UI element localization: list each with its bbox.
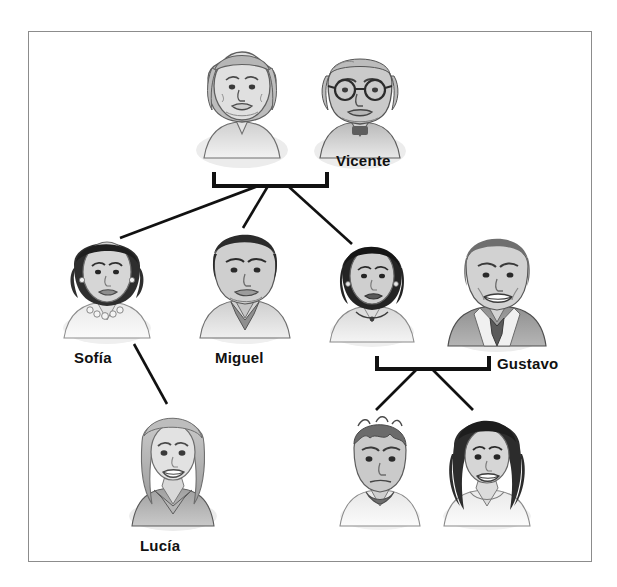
portrait-vicente: [300, 38, 420, 168]
portrait-grandmother: [182, 38, 302, 168]
family-tree-page: Vicente Sofía Miguel Gustavo Lucía: [0, 0, 617, 587]
portrait-gustavo: [440, 222, 555, 350]
label-lucia: Lucía: [140, 538, 180, 553]
portrait-lucia: [118, 400, 228, 530]
portrait-grandson: [330, 404, 430, 529]
portrait-granddaughter: [432, 402, 542, 530]
label-vicente: Vicente: [336, 153, 391, 168]
label-sofia: Sofía: [74, 350, 112, 365]
portrait-sofia: [52, 224, 162, 344]
label-gustavo: Gustavo: [497, 356, 558, 371]
sofia-lucia-link: [134, 344, 167, 404]
label-miguel: Miguel: [215, 350, 264, 365]
portrait-woman-bob: [320, 228, 425, 346]
portrait-miguel: [190, 218, 300, 343]
